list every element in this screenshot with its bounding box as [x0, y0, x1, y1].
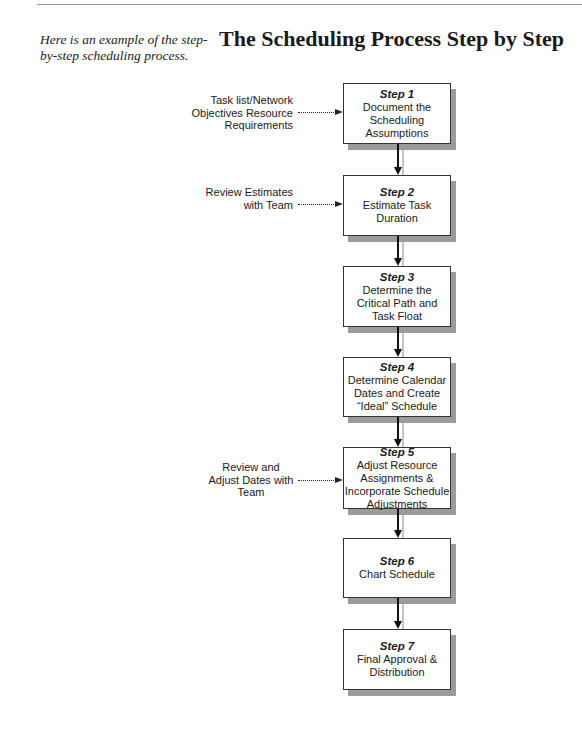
dotted-connector — [298, 204, 336, 205]
connector-shadow — [402, 333, 404, 357]
connector-shadow — [402, 604, 404, 629]
dotted-connector — [298, 112, 336, 113]
connector-5-6 — [397, 509, 399, 530]
connector-shadow — [402, 150, 404, 175]
arrow-right-icon — [335, 201, 343, 207]
step-3-number: Step 3 — [380, 271, 415, 284]
step-6-box: Step 6 Chart Schedule — [343, 538, 451, 598]
connector-6-7 — [397, 598, 399, 621]
connector-shadow — [402, 515, 404, 538]
step-2-box: Step 2 Estimate Task Duration — [343, 175, 451, 236]
connector-4-5 — [397, 417, 399, 439]
connector-shadow — [402, 423, 404, 447]
step-1-number: Step 1 — [380, 88, 415, 101]
connector-2-3 — [397, 236, 399, 258]
arrow-down-icon — [394, 349, 402, 357]
step-1-box: Step 1 Document the Scheduling Assumptio… — [343, 83, 451, 144]
step-5-box: Step 5 Adjust Resource Assignments & Inc… — [343, 447, 451, 509]
step-6-number: Step 6 — [380, 555, 415, 568]
arrow-down-icon — [394, 167, 402, 175]
step-7-number: Step 7 — [380, 640, 415, 653]
input-label-step-1: Task list/Network Objectives Resource Re… — [133, 94, 293, 132]
step-4-number: Step 4 — [380, 361, 415, 374]
step-5-number: Step 5 — [380, 446, 415, 459]
step-7-text: Final Approval & Distribution — [352, 653, 442, 679]
arrow-right-icon — [335, 477, 343, 483]
dotted-connector — [298, 480, 336, 481]
page-title: The Scheduling Process Step by Step — [219, 26, 564, 52]
step-3-text: Determine the Critical Path and Task Flo… — [345, 284, 449, 323]
step-1-text: Document the Scheduling Assumptions — [357, 101, 437, 140]
arrow-down-icon — [394, 439, 402, 447]
input-label-step-2: Review Estimates with Team — [203, 186, 293, 211]
arrow-right-icon — [335, 109, 343, 115]
step-4-text: Determine Calendar Dates and Create “Ide… — [347, 374, 447, 413]
top-rule — [37, 4, 582, 5]
step-2-number: Step 2 — [380, 186, 415, 199]
step-6-text: Chart Schedule — [359, 568, 435, 581]
step-3-box: Step 3 Determine the Critical Path and T… — [343, 266, 451, 327]
step-7-box: Step 7 Final Approval & Distribution — [343, 629, 451, 690]
connector-1-2 — [397, 144, 399, 167]
side-caption: Here is an example of the step-by-step s… — [40, 32, 210, 64]
connector-3-4 — [397, 327, 399, 349]
arrow-down-icon — [394, 530, 402, 538]
arrow-down-icon — [394, 258, 402, 266]
arrow-down-icon — [394, 621, 402, 629]
step-2-text: Estimate Task Duration — [357, 199, 437, 225]
step-5-text: Adjust Resource Assignments & Incorporat… — [344, 459, 450, 511]
connector-shadow — [402, 242, 404, 266]
input-label-step-5: Review and Adjust Dates with Team — [208, 461, 294, 499]
step-4-box: Step 4 Determine Calendar Dates and Crea… — [343, 357, 451, 417]
